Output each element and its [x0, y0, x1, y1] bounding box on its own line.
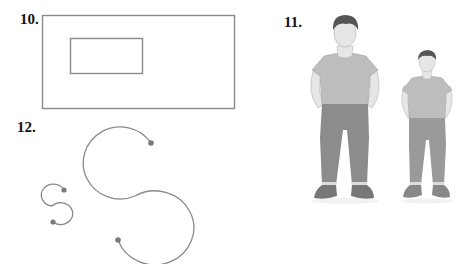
small-man: [401, 50, 453, 204]
large-man: [311, 15, 379, 204]
problem-11-figure: [0, 0, 462, 264]
